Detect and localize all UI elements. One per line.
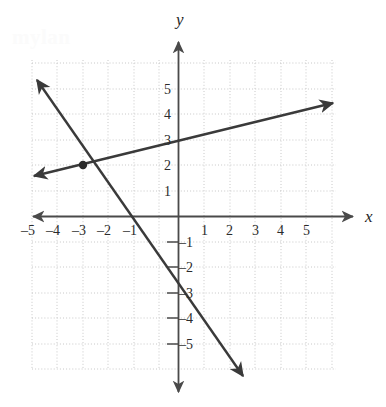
x-tick-label-2: 2 <box>226 224 233 238</box>
x-tick-label--3: –3 <box>72 224 86 238</box>
y-tick-label-2: 2 <box>164 159 171 173</box>
x-tick-label-3: 3 <box>252 224 259 238</box>
y-axis-label: y <box>176 11 184 28</box>
y-axis-negative-ticks <box>167 242 178 344</box>
x-tick-label--4: –4 <box>46 224 60 238</box>
x-tick-label--1: –1 <box>123 224 137 238</box>
y-tick-label--1: –1 <box>179 236 193 250</box>
y-tick-label--2: –2 <box>179 261 193 275</box>
y-tick-label--5: –5 <box>179 338 193 352</box>
x-tick-label-5: 5 <box>303 224 310 238</box>
graph-canvas <box>0 0 386 407</box>
x-tick-label--2: –2 <box>97 224 111 238</box>
x-tick-label-4: 4 <box>277 224 284 238</box>
series-line-2 <box>37 80 243 376</box>
y-tick-label-4: 4 <box>164 108 171 122</box>
intersection-point <box>79 161 87 169</box>
x-tick-label--5: –5 <box>21 224 35 238</box>
coordinate-plane-figure: mylan <box>0 0 386 407</box>
x-axis-label: x <box>365 208 373 225</box>
y-tick-label--4: –4 <box>179 312 193 326</box>
y-tick-label-5: 5 <box>164 83 171 97</box>
y-tick-label-3: 3 <box>164 134 171 148</box>
x-tick-label-1: 1 <box>201 224 208 238</box>
y-tick-label-1: 1 <box>164 185 171 199</box>
y-tick-label--3: –3 <box>179 287 193 301</box>
